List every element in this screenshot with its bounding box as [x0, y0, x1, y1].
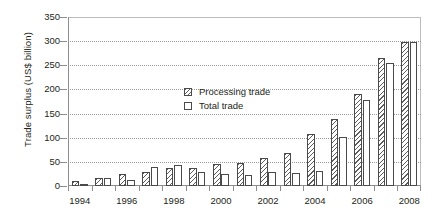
y-tick-label-200: 200 [30, 84, 60, 94]
legend-item-total-trade: Total trade [184, 99, 270, 113]
bar-processing-1996 [119, 174, 127, 186]
y-tick-label-150: 150 [30, 109, 60, 119]
bar-total-1994 [80, 184, 88, 186]
hatched-swatch [184, 88, 192, 96]
y-axis-line [68, 17, 69, 186]
x-tick-2007 [374, 186, 375, 191]
bar-total-2001 [245, 175, 253, 186]
y-tick-label-350: 350 [30, 12, 60, 22]
bar-total-1997 [151, 167, 159, 186]
x-tick-label-1996: 1996 [106, 196, 148, 206]
plot-top-border [68, 17, 421, 18]
bar-total-2003 [292, 173, 300, 186]
bar-processing-1995 [95, 178, 103, 186]
bar-processing-2000 [213, 164, 221, 186]
y-tick-150 [60, 114, 67, 115]
x-tick-1999 [186, 186, 187, 191]
x-tick-2006 [350, 186, 351, 191]
x-tick-2000 [209, 186, 210, 191]
bar-total-2007 [386, 63, 394, 186]
bar-total-1999 [198, 172, 206, 186]
gridline-250 [68, 65, 421, 66]
bar-total-2002 [268, 172, 276, 186]
y-tick-250 [60, 65, 67, 66]
bar-total-1998 [174, 165, 182, 186]
x-tick-2004 [303, 186, 304, 191]
legend-label: Total trade [199, 99, 243, 113]
y-tick-300 [60, 41, 67, 42]
bar-processing-2002 [260, 158, 268, 186]
gridline-300 [68, 41, 421, 42]
bar-processing-2006 [354, 94, 362, 186]
bar-processing-1997 [142, 172, 150, 186]
bar-processing-1994 [72, 181, 80, 186]
trade-surplus-bar-chart: Trade surplus (US$ billion) 050100150200… [0, 0, 442, 224]
x-tick-label-1994: 1994 [59, 196, 101, 206]
plot-right-border [420, 17, 421, 186]
bar-processing-2003 [284, 153, 292, 186]
bar-total-1996 [127, 180, 135, 186]
y-tick-label-250: 250 [30, 60, 60, 70]
bar-processing-2007 [378, 58, 386, 186]
y-tick-100 [60, 138, 67, 139]
bar-total-1995 [104, 178, 112, 186]
y-tick-label-0: 0 [30, 181, 60, 191]
x-tick-2001 [233, 186, 234, 191]
x-tick-1995 [92, 186, 93, 191]
x-tick-2003 [280, 186, 281, 191]
bar-processing-2008 [401, 42, 409, 186]
x-tick-1994 [68, 186, 69, 191]
x-tick-label-2008: 2008 [388, 196, 430, 206]
y-tick-label-50: 50 [30, 157, 60, 167]
bar-total-2006 [363, 100, 371, 186]
y-tick-label-300: 300 [30, 36, 60, 46]
y-tick-label-100: 100 [30, 133, 60, 143]
bar-total-2005 [339, 137, 347, 186]
open-swatch [184, 102, 192, 110]
legend-label: Processing trade [199, 85, 270, 99]
x-tick-2005 [327, 186, 328, 191]
y-tick-350 [60, 17, 67, 18]
bar-total-2000 [221, 174, 229, 186]
legend-item-processing-trade: Processing trade [184, 85, 270, 99]
chart-legend: Processing tradeTotal trade [184, 85, 270, 113]
x-tick-label-2004: 2004 [294, 196, 336, 206]
bar-total-2008 [410, 42, 418, 186]
bar-processing-2005 [331, 119, 339, 186]
bar-total-2004 [316, 171, 324, 186]
x-tick-label-1998: 1998 [153, 196, 195, 206]
x-tick-end [420, 186, 421, 191]
x-tick-1997 [139, 186, 140, 191]
x-tick-1998 [162, 186, 163, 191]
x-tick-2002 [256, 186, 257, 191]
x-tick-label-2000: 2000 [200, 196, 242, 206]
bar-processing-1999 [189, 168, 197, 186]
x-tick-label-2006: 2006 [341, 196, 383, 206]
y-tick-50 [60, 162, 67, 163]
y-tick-0 [60, 186, 67, 187]
bar-processing-1998 [166, 168, 174, 186]
x-tick-2008 [397, 186, 398, 191]
x-tick-label-2002: 2002 [247, 196, 289, 206]
bar-processing-2004 [307, 134, 315, 186]
plot-area: 050100150200250300350 199419961998200020… [68, 17, 421, 186]
x-tick-1996 [115, 186, 116, 191]
y-tick-200 [60, 89, 67, 90]
bar-processing-2001 [237, 163, 245, 186]
